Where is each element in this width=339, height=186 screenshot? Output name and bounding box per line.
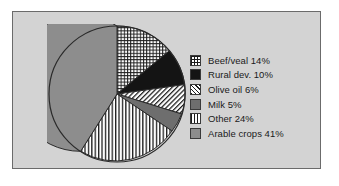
legend-item-milk: Milk 5% [190, 97, 318, 112]
legend: Beef/veal 14% Rural dev. 10% Olive oil 6… [190, 53, 318, 141]
legend-item-arable-crops: Arable crops 41% [190, 126, 318, 141]
legend-label-beef-veal: Beef/veal 14% [208, 55, 270, 66]
legend-item-rural-dev: Rural dev. 10% [190, 68, 318, 83]
pie-chart [47, 24, 187, 164]
legend-item-other: Other 24% [190, 111, 318, 126]
vertical-stripe-swatch-icon [190, 113, 201, 124]
pie-chart-figure: Beef/veal 14% Rural dev. 10% Olive oil 6… [0, 0, 339, 186]
legend-label-rural-dev: Rural dev. 10% [208, 69, 273, 80]
legend-item-beef-veal: Beef/veal 14% [190, 53, 318, 68]
mid-grey-swatch-icon [190, 128, 201, 139]
grid-swatch-icon [190, 55, 201, 66]
legend-label-milk: Milk 5% [208, 99, 242, 110]
solid-black-swatch-icon [190, 69, 201, 80]
diagonal-hatch-swatch-icon [190, 84, 201, 95]
legend-label-other: Other 24% [208, 113, 254, 124]
pie-svg [47, 24, 187, 164]
dark-grey-swatch-icon [190, 99, 201, 110]
legend-label-olive-oil: Olive oil 6% [208, 84, 259, 95]
legend-label-arable-crops: Arable crops 41% [208, 128, 284, 139]
chart-panel: Beef/veal 14% Rural dev. 10% Olive oil 6… [12, 11, 321, 169]
legend-item-olive-oil: Olive oil 6% [190, 82, 318, 97]
